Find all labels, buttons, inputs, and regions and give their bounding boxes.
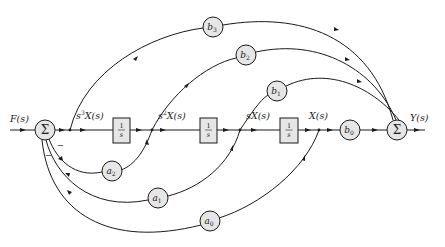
arrow-icon [372, 128, 378, 132]
block-diagram: Σ − − Σ 1 s 1 s 1 s b3 b2 b1 b0 [0, 0, 445, 247]
arrow-icon [357, 79, 362, 83]
gain-subscript: 2 [112, 170, 116, 177]
output-summer: Σ [387, 120, 407, 140]
arrow-icon [80, 128, 86, 132]
gain-subscript: 1 [158, 197, 162, 204]
sigma-symbol: Σ [393, 123, 401, 137]
gain-a2: a2 [102, 161, 122, 181]
feedforward-paths [70, 22, 399, 130]
gain-subscript: 1 [277, 90, 281, 97]
arrow-icon [305, 128, 311, 132]
arrow-icon [414, 128, 420, 132]
integrator-numerator: 1 [206, 122, 210, 130]
output-label: Y(s) [410, 112, 429, 123]
arrow-icon [160, 128, 166, 132]
gain-subscript: 0 [350, 129, 354, 136]
arrow-icon [133, 56, 138, 61]
gain-a1: a1 [148, 188, 168, 208]
gain-b2: b2 [236, 45, 256, 65]
wire-s2x-to-b2 [152, 58, 236, 130]
integrator-2: 1 s [200, 118, 217, 143]
signal-label-sx: sX(s) [246, 110, 270, 121]
wire-x-to-a0 [219, 130, 319, 218]
integrator-3: 1 s [280, 118, 298, 143]
arrow-icon [136, 128, 142, 132]
signal-label-s2x: s2X(s) [158, 109, 186, 121]
gain-a0: a0 [200, 211, 220, 231]
signal-label-s3x: s3X(s) [76, 109, 104, 121]
arrow-icon [302, 155, 305, 161]
gain-b3: b3 [203, 17, 223, 37]
arrow-icon [223, 128, 229, 132]
integrator-1: 1 s [113, 118, 130, 143]
arrow-icon [334, 27, 339, 31]
minus-sign: − [57, 141, 64, 150]
wire-a0-to-sum [42, 140, 201, 232]
arrow-icon [230, 145, 233, 151]
arrow-icon [67, 190, 72, 195]
minus-sign: − [45, 151, 52, 160]
gain-b0: b0 [340, 120, 360, 140]
arrow-icon [345, 57, 350, 61]
arrow-icon [327, 128, 333, 132]
gain-subscript: 3 [213, 26, 217, 33]
gain-subscript: 0 [210, 220, 214, 227]
wire-b1-to-sum [286, 78, 399, 120]
integrator-numerator: 1 [119, 122, 123, 130]
gain-b1: b1 [267, 81, 287, 101]
input-label: F(s) [9, 113, 29, 124]
feedback-paths [42, 130, 319, 232]
arrow-icon [59, 128, 65, 132]
sigma-symbol: Σ [41, 123, 49, 137]
arrow-icon [251, 128, 257, 132]
signal-label-x: X(s) [308, 110, 328, 121]
gain-subscript: 2 [246, 54, 250, 61]
arrow-icon [20, 128, 26, 132]
integrator-numerator: 1 [287, 122, 291, 130]
wire-b3-to-sum [223, 22, 393, 120]
